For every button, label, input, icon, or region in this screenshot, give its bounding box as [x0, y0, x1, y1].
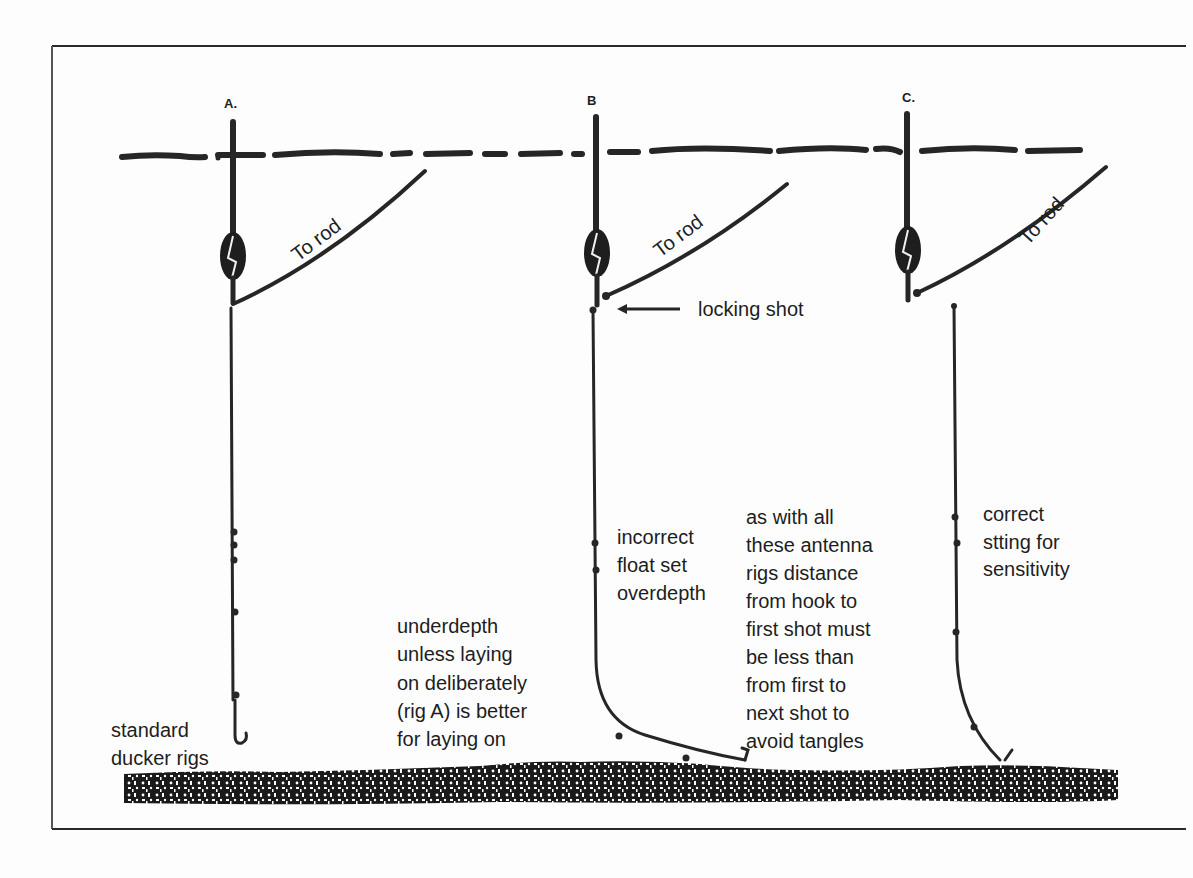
note-antenna-line: be less than	[746, 646, 854, 668]
note-antenna-line: these antenna	[746, 534, 874, 556]
caption-b-line2: float set	[617, 554, 687, 576]
note-antenna: as with all these antenna rigs distance …	[746, 506, 874, 752]
note-underdepth-line: underdepth	[397, 615, 498, 637]
note-antenna-line: next shot to	[746, 702, 849, 724]
note-underdepth-line: unless laying	[397, 643, 513, 665]
caption-a-line2: ducker rigs	[111, 747, 209, 769]
rig-c: C. To rod correct stting for sensitivity	[895, 90, 1106, 760]
note-antenna-line: rigs distance	[746, 562, 858, 584]
note-underdepth-line: on deliberately	[397, 672, 527, 694]
note-underdepth-line: (rig A) is better	[397, 700, 527, 722]
note-underdepth-line: for laying on	[397, 728, 506, 750]
water-surface-line	[122, 148, 1080, 160]
rig-letter-b: B	[587, 93, 596, 108]
diagram-canvas: A. To rod standard ducker rigs B	[0, 0, 1193, 878]
note-antenna-line: avoid tangles	[746, 730, 864, 752]
caption-b-line3: overdepth	[617, 582, 706, 604]
caption-a-line1: standard	[111, 719, 189, 741]
rig-letter-c: C.	[902, 90, 915, 105]
caption-c-line3: sensitivity	[983, 558, 1070, 580]
note-antenna-line: from first to	[746, 674, 846, 696]
rod-label-c: To rod	[1015, 193, 1069, 249]
caption-b-line1: incorrect	[617, 526, 694, 548]
rig-a: A. To rod standard ducker rigs	[111, 96, 425, 769]
locking-shot-pointer	[617, 304, 680, 314]
note-antenna-line: from hook to	[746, 590, 857, 612]
rig-letter-a: A.	[224, 96, 237, 111]
frame-border	[52, 46, 1186, 829]
river-bed	[124, 761, 1118, 804]
note-antenna-line: first shot must	[746, 618, 871, 640]
caption-c-line1: correct	[983, 503, 1045, 525]
locking-shot-label: locking shot	[698, 298, 804, 320]
note-antenna-line: as with all	[746, 506, 834, 528]
rod-label-b: To rod	[649, 210, 707, 261]
note-underdepth: underdepth unless laying on deliberately…	[397, 615, 527, 750]
caption-c-line2: stting for	[983, 531, 1060, 553]
